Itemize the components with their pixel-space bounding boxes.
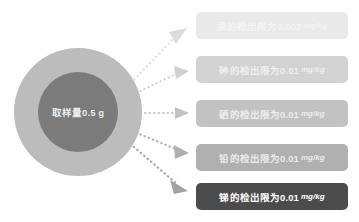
detection-limit-diagram: 取样量0.5 g 汞的检出限为0.002 mg/kg 砷的检出限为0.01 mg… [0,0,359,222]
arrow-selenium [136,107,189,119]
arrow-lead [132,131,189,159]
result-unit-selenium: mg/kg [299,109,325,118]
result-unit-antimony: mg/kg [299,192,325,201]
result-label-arsenic: 砷的检出限为0.01 [219,63,299,77]
result-box-arsenic[interactable]: 砷的检出限为0.01 mg/kg [196,56,348,83]
result-box-antimony[interactable]: 锑的检出限为0.01 mg/kg [196,183,348,210]
arrow-arsenic [132,66,189,95]
sample-amount-label: 取样量0.5 g [38,72,118,152]
result-label-lead: 铅的检出限为0.01 [219,151,299,165]
result-unit-mercury: mg/kg [302,21,328,30]
result-box-lead[interactable]: 铅的检出限为0.01 mg/kg [196,144,348,171]
arrow-mercury [128,28,187,86]
result-label-mercury: 汞的检出限为0.002 [217,19,302,33]
result-box-selenium[interactable]: 硒的检出限为0.01 mg/kg [196,100,348,127]
arrow-antimony [127,141,188,194]
result-box-mercury[interactable]: 汞的检出限为0.002 mg/kg [196,12,348,39]
result-unit-arsenic: mg/kg [299,65,325,74]
result-label-selenium: 硒的检出限为0.01 [219,107,299,121]
result-label-antimony: 锑的检出限为0.01 [219,190,299,204]
result-unit-lead: mg/kg [299,153,325,162]
